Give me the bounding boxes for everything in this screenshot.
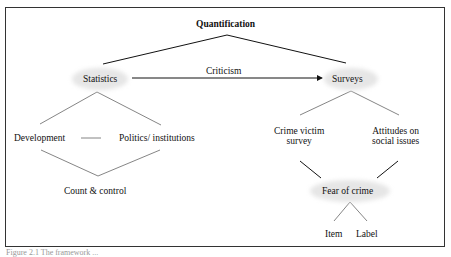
node-crime-victim: Crime victim survey [274,126,324,147]
crime-victim-line2: survey [274,136,324,146]
attitudes-line1: Attitudes on [372,126,419,136]
node-quantification: Quantification [196,19,255,29]
node-item: Item [325,229,342,239]
node-surveys: Surveys [332,74,363,84]
node-statistics: Statistics [83,74,117,84]
crime-victim-line1: Crime victim [274,126,324,136]
node-fear-of-crime: Fear of crime [322,186,373,196]
figure-caption: Figure 2.1 The framework ... [6,248,98,257]
node-development: Development [14,133,65,143]
attitudes-line2: social issues [372,136,419,146]
edge-criticism: Criticism [206,66,241,76]
node-attitudes: Attitudes on social issues [372,126,419,147]
node-count-control: Count & control [64,186,126,196]
node-label: Label [356,229,378,239]
node-politics: Politics/ institutions [119,133,195,143]
